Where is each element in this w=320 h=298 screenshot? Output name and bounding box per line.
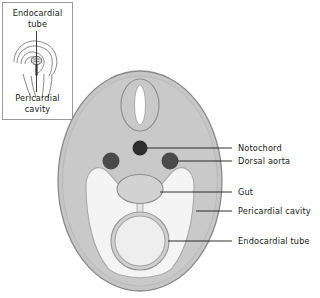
endocardial-tube-lumen — [115, 216, 165, 266]
label-dorsal-aorta: Dorsal aorta — [238, 156, 290, 166]
diagram-canvas: Endocardial tube Pericardial cavity — [0, 0, 320, 298]
dorsal-aorta-left — [103, 153, 120, 170]
inset-top-label: Endocardial — [13, 8, 63, 18]
embryo-folding-inset: Endocardial tube Pericardial cavity — [3, 3, 73, 120]
dorsal-aorta-right — [162, 153, 179, 170]
main-cross-section — [58, 71, 222, 291]
label-notochord: Notochord — [238, 143, 282, 153]
embryo-cross-section-figure: Endocardial tube Pericardial cavity — [0, 0, 320, 298]
notochord — [133, 141, 148, 156]
inset-bottom-label: Pericardial — [15, 93, 59, 103]
inset-bottom-label-line2: cavity — [25, 104, 51, 114]
neural-canal — [135, 85, 146, 125]
label-gut: Gut — [238, 187, 254, 197]
inset-top-label-line2: tube — [28, 19, 47, 29]
label-pericardial-cavity: Pericardial cavity — [238, 206, 311, 216]
label-endocardial-tube: Endocardial tube — [238, 236, 310, 246]
gut — [117, 175, 163, 204]
